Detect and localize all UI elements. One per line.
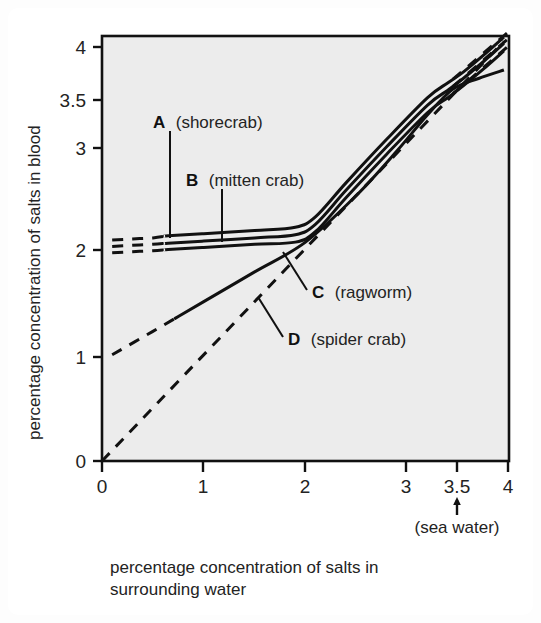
sea-water-arrow-icon <box>453 497 461 515</box>
y-tick-label-3p5: 3.5 <box>60 90 86 111</box>
x-tick-label-4: 4 <box>503 476 514 497</box>
series-letter-a: A <box>153 113 165 132</box>
x-tick-label-0: 0 <box>97 476 108 497</box>
series-name-d: (spider crab) <box>311 330 406 349</box>
series-letter-c: C <box>312 283 324 302</box>
series-label-c: C (ragworm) <box>312 283 412 302</box>
y-tick-label-1: 1 <box>75 347 86 368</box>
series-letter-b: B <box>186 171 198 190</box>
x-axis-title-line2: surrounding water <box>110 580 246 599</box>
x-tick-label-3: 3 <box>401 476 412 497</box>
x-tick-label-1: 1 <box>198 476 209 497</box>
y-axis-ticks <box>93 47 102 461</box>
figure-container: 4 3.5 3 2 1 0 0 1 2 3 3.5 4 (sea water) … <box>0 0 541 623</box>
x-tick-label-2: 2 <box>300 476 311 497</box>
y-tick-label-3: 3 <box>75 138 86 159</box>
series-name-a: (shorecrab) <box>176 113 263 132</box>
x-tick-label-3p5: 3.5 <box>444 476 470 497</box>
sea-water-label: (sea water) <box>414 518 499 537</box>
series-name-b: (mitten crab) <box>209 171 304 190</box>
x-axis-title-line1: percentage concentration of salts in <box>110 558 378 577</box>
chart-svg: 4 3.5 3 2 1 0 0 1 2 3 3.5 4 (sea water) … <box>0 0 541 623</box>
series-name-c: (ragworm) <box>335 283 412 302</box>
x-axis-ticks <box>102 461 508 472</box>
y-axis-title: percentage concentration of salts in blo… <box>25 125 44 440</box>
y-tick-label-2: 2 <box>75 240 86 261</box>
series-letter-d: D <box>288 330 300 349</box>
y-tick-label-0: 0 <box>75 451 86 472</box>
series-label-a: A (shorecrab) <box>153 113 263 132</box>
y-tick-label-4: 4 <box>75 37 86 58</box>
